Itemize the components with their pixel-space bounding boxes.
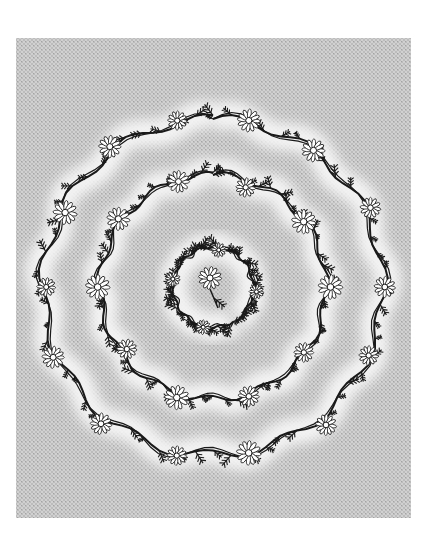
floral-wreath-artwork xyxy=(0,0,440,550)
